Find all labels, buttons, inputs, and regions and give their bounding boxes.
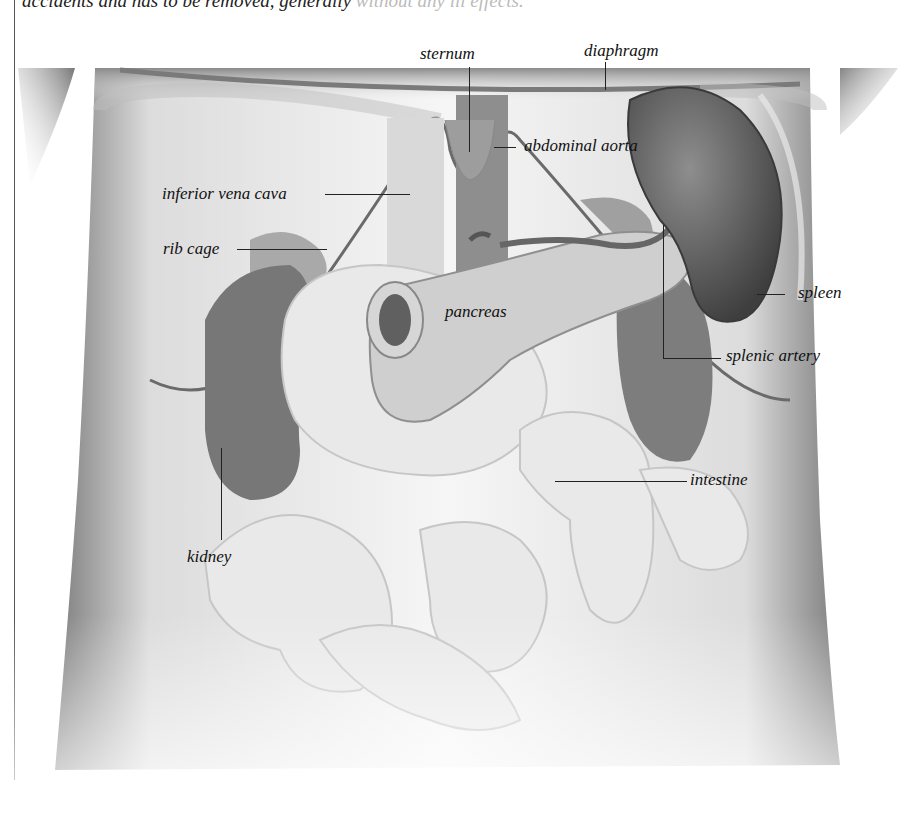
label-abdominal-aorta: abdominal aorta (524, 136, 638, 156)
leader-inferior-vena-cava (325, 194, 410, 195)
leader-diaphragm (605, 62, 606, 90)
label-inferior-vena-cava: inferior vena cava (162, 184, 287, 204)
label-pancreas: pancreas (445, 302, 507, 322)
label-kidney: kidney (187, 547, 231, 567)
label-splenic-artery: splenic artery (726, 346, 820, 366)
leader-sternum (469, 67, 470, 152)
label-intestine: intestine (690, 470, 748, 490)
label-spleen: spleen (798, 283, 841, 303)
leader-kidney (221, 448, 222, 540)
leader-spleen (757, 294, 785, 295)
leader-splenic-artery-horizontal (663, 358, 721, 359)
leader-rib-cage (237, 249, 327, 250)
leader-abdominal-aorta (494, 147, 516, 148)
leader-splenic-artery-vertical (663, 225, 664, 358)
label-rib-cage: rib cage (163, 239, 219, 259)
label-sternum: sternum (420, 44, 475, 64)
label-diaphragm: diaphragm (584, 41, 659, 61)
leader-intestine (555, 481, 687, 482)
abdominal-anatomy-illustration (0, 0, 898, 818)
